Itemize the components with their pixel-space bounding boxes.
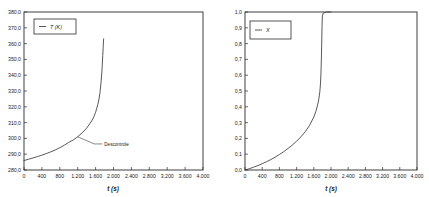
x-axis-ticks-left: 04008001.2001.6002.0002.4002.8003.2003.6… <box>23 167 210 179</box>
x-tick-label: 800 <box>55 173 64 179</box>
x-tick-label: 3.200 <box>161 173 174 179</box>
x-tick-label: 3.200 <box>376 173 389 179</box>
y-tick-label: 0,0 <box>235 167 242 173</box>
x-tick-label: 3.600 <box>179 173 192 179</box>
chart-panel-temperature: 280,0290,0300,0310,0320,0330,0340,0350,0… <box>0 0 215 197</box>
conversion-chart-svg: 0,00,10,20,30,40,50,60,70,80,91,0 040080… <box>215 0 429 197</box>
x-tick-label: 3.600 <box>393 173 406 179</box>
annotation-leader-line <box>78 137 103 144</box>
x-tick-label: 2.000 <box>325 173 338 179</box>
y-tick-label: 370,0 <box>8 25 21 31</box>
y-tick-label: 290,0 <box>8 151 21 157</box>
x-tick-label: 2.800 <box>143 173 156 179</box>
annotation-descontrole: Descontrole <box>78 137 130 147</box>
y-tick-label: 1,0 <box>235 9 242 15</box>
y-tick-label: 330,0 <box>8 88 21 94</box>
y-tick-label: 0,6 <box>235 72 242 78</box>
chart-panel-conversion: 0,00,10,20,30,40,50,60,70,80,91,0 040080… <box>215 0 429 197</box>
figure-container: 280,0290,0300,0310,0320,0330,0340,0350,0… <box>0 0 429 197</box>
x-tick-label: 4.000 <box>197 173 210 179</box>
x-tick-label: 1.600 <box>89 173 102 179</box>
y-tick-label: 0,2 <box>235 135 242 141</box>
x-axis-title-right: t (s) <box>325 185 337 193</box>
x-tick-label: 2.400 <box>342 173 355 179</box>
temperature-curve <box>24 39 104 161</box>
y-tick-label: 340,0 <box>8 72 21 78</box>
y-tick-label: 350,0 <box>8 56 21 62</box>
y-tick-label: 0,3 <box>235 120 242 126</box>
x-tick-label: 4.000 <box>411 173 424 179</box>
legend-label-conversion: X <box>265 27 270 33</box>
legend-label-temperature: T (K) <box>50 24 62 30</box>
y-tick-label: 320,0 <box>8 104 21 110</box>
x-axis-title-left: t (s) <box>107 185 119 193</box>
y-tick-label: 300,0 <box>8 135 21 141</box>
x-tick-label: 0 <box>23 173 26 179</box>
y-axis-ticks-right: 0,00,10,20,30,40,50,60,70,80,91,0 <box>235 9 248 173</box>
x-tick-label: 400 <box>258 173 267 179</box>
x-tick-label: 2.000 <box>107 173 120 179</box>
x-tick-label: 2.400 <box>125 173 138 179</box>
annotation-label: Descontrole <box>104 142 129 147</box>
y-tick-label: 310,0 <box>8 120 21 126</box>
legend-left: T (K) <box>34 19 76 34</box>
x-tick-label: 1.200 <box>290 173 303 179</box>
x-tick-label: 800 <box>275 173 284 179</box>
x-tick-label: 0 <box>244 173 247 179</box>
y-tick-label: 0,5 <box>235 88 242 94</box>
x-tick-label: 1.200 <box>71 173 84 179</box>
y-tick-label: 280,0 <box>8 167 21 173</box>
y-tick-label: 360,0 <box>8 41 21 47</box>
y-tick-label: 0,8 <box>235 41 242 47</box>
y-tick-label: 0,1 <box>235 151 242 157</box>
y-tick-label: 0,4 <box>235 104 242 110</box>
y-tick-label: 0,9 <box>235 25 242 31</box>
legend-right: X <box>250 21 291 39</box>
x-tick-label: 1.600 <box>307 173 320 179</box>
y-tick-label: 0,7 <box>235 56 242 62</box>
x-axis-ticks-right: 04008001.2001.6002.0002.4002.8003.2003.6… <box>244 167 424 179</box>
x-tick-label: 2.800 <box>359 173 372 179</box>
temperature-chart-svg: 280,0290,0300,0310,0320,0330,0340,0350,0… <box>0 0 215 197</box>
y-tick-label: 380,0 <box>8 9 21 15</box>
x-tick-label: 400 <box>38 173 47 179</box>
